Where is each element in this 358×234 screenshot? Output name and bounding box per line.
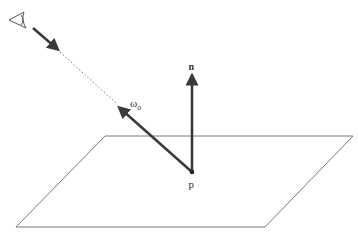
outgoing-arrow — [122, 110, 192, 172]
omega-subscript: o — [137, 103, 141, 112]
outgoing-label: ωo — [130, 97, 141, 112]
point-p-dot — [190, 170, 195, 175]
view-arrow — [33, 28, 55, 47]
eye-icon — [9, 12, 26, 28]
omega-symbol: ω — [130, 97, 137, 109]
surface-plane — [16, 136, 353, 227]
point-label: p — [189, 178, 195, 190]
dotted-view-ray — [60, 52, 116, 103]
reflection-diagram: n ωo p — [0, 0, 358, 234]
normal-label: n — [189, 61, 195, 72]
